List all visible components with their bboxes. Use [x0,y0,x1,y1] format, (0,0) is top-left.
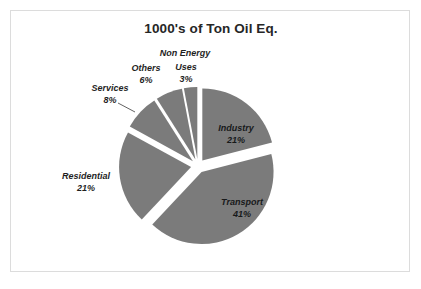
pie-slices [119,87,273,244]
pie-label-services-pct: 8% [83,95,137,107]
pie-label-transport-pct: 41% [211,209,273,221]
pie-label-services-name: Services [91,83,128,93]
pie-label-non-energy-uses-name-line2: Uses [175,62,197,72]
pie-label-others-name: Others [131,63,160,73]
pie-label-residential: Residential 21% [49,171,123,194]
pie-label-non-energy-uses-name-line1: Non Energy [160,48,211,58]
pie-label-industry: Industry 21% [207,123,265,146]
pie-label-residential-pct: 21% [49,183,123,195]
chart-frame: 1000's of Ton Oil Eq. Non Energy Uses 3%… [10,10,410,272]
pie-label-industry-name: Industry [218,123,254,133]
pie-label-services: Services 8% [83,83,137,106]
pie-label-industry-pct: 21% [207,135,265,147]
pie-label-residential-name: Residential [62,171,110,181]
pie-label-transport-name: Transport [221,197,263,207]
pie-label-non-energy-uses-pct: 3% [166,74,206,86]
pie-label-transport: Transport 41% [211,197,273,220]
pie-label-non-energy-uses-value: Uses 3% [166,62,206,85]
pie-label-non-energy-uses: Non Energy [142,48,228,60]
